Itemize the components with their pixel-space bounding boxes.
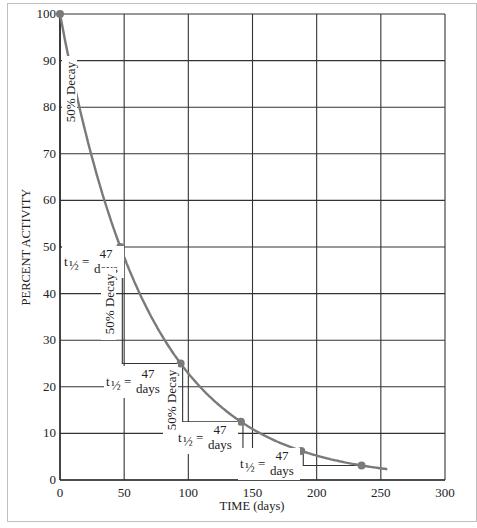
equals-sign: = — [258, 456, 265, 471]
y-tick-label: 40 — [43, 286, 56, 301]
y-tick-label: 80 — [43, 99, 56, 114]
y-tick-label: 0 — [50, 472, 57, 487]
half-life-unit: days — [136, 381, 160, 396]
x-axis-ticks: 050100150200250300 — [57, 485, 455, 500]
y-tick-label: 20 — [43, 379, 56, 394]
y-axis-ticks: 0102030405060708090100 — [37, 6, 57, 487]
decay-curve — [60, 14, 387, 469]
t-half-symbol: t — [178, 430, 182, 445]
t-half-symbol: t — [64, 254, 68, 269]
annotations: 50% Decayt½=47days50% Decayt½=47days50% … — [62, 56, 300, 480]
y-tick-label: 100 — [37, 6, 57, 21]
half-life-value: 47 — [100, 246, 114, 261]
t-half-symbol: t — [106, 374, 110, 389]
decay-label: 50% Decay — [164, 369, 179, 430]
data-point — [56, 10, 64, 18]
x-axis-title: TIME (days) — [220, 499, 285, 513]
x-tick-label: 300 — [435, 485, 455, 500]
t-half-subscript: ½ — [111, 378, 121, 393]
half-life-value: 47 — [214, 422, 228, 437]
t-half-subscript: ½ — [69, 258, 79, 273]
half-life-step — [60, 14, 120, 247]
decay-label: 50% Decay — [102, 273, 117, 334]
y-tick-label: 10 — [43, 425, 56, 440]
half-life-unit: days — [270, 463, 294, 478]
data-point — [358, 461, 366, 469]
half-life-step — [183, 364, 241, 422]
y-tick-label: 70 — [43, 146, 56, 161]
t-half-subscript: ½ — [183, 434, 193, 449]
x-tick-label: 250 — [371, 485, 391, 500]
half-life-unit: days — [208, 437, 232, 452]
x-tick-label: 0 — [57, 485, 64, 500]
half-life-value: 47 — [276, 448, 290, 463]
y-tick-label: 30 — [43, 332, 56, 347]
half-life-points — [56, 10, 366, 469]
y-tick-label: 60 — [43, 192, 56, 207]
t-half-symbol: t — [240, 456, 244, 471]
equals-sign: = — [82, 254, 89, 269]
equals-sign: = — [124, 374, 131, 389]
data-point — [237, 418, 245, 426]
t-half-subscript: ½ — [245, 460, 255, 475]
equals-sign: = — [196, 430, 203, 445]
y-axis-title: PERCENT ACTIVITY — [19, 189, 33, 306]
half-life-value: 47 — [142, 366, 156, 381]
decay-label: 50% Decay — [63, 61, 78, 122]
x-tick-label: 150 — [243, 485, 263, 500]
half-life-step — [122, 247, 180, 364]
y-tick-label: 90 — [43, 53, 56, 68]
x-tick-label: 50 — [118, 485, 131, 500]
x-tick-label: 100 — [179, 485, 199, 500]
x-tick-label: 200 — [307, 485, 327, 500]
y-tick-label: 50 — [43, 239, 56, 254]
